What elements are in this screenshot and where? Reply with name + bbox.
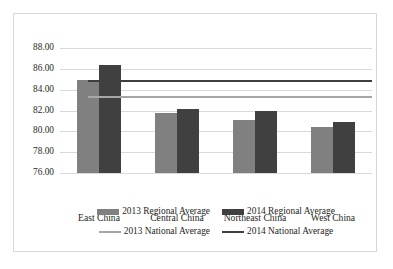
legend-item-label: 2013 National Average (124, 227, 210, 236)
bar-2013[interactable] (233, 120, 255, 173)
bar-2014[interactable] (333, 122, 355, 173)
legend-row-national: 2013 National Average 2014 National Aver… (60, 222, 372, 242)
legend-item-label: 2014 Regional Average (247, 207, 335, 216)
legend-item-label: 2013 Regional Average (122, 207, 210, 216)
legend-line-icon (99, 231, 121, 233)
legend-swatch-icon (222, 209, 244, 215)
legend-item-2013-national[interactable]: 2013 National Average (99, 227, 210, 236)
y-axis-tick-label: 80.00 (0, 126, 54, 135)
gridline (60, 173, 372, 174)
bar-2014[interactable] (177, 109, 199, 173)
gridline (60, 48, 372, 49)
legend-item-2014-regional[interactable]: 2014 Regional Average (222, 207, 335, 216)
y-axis-tick-label: 82.00 (0, 106, 54, 115)
bar-2013[interactable] (77, 80, 99, 173)
bar-2013[interactable] (155, 113, 177, 173)
bar-2013[interactable] (311, 127, 333, 173)
reference-line-2014[interactable] (88, 80, 372, 82)
y-axis-tick-label: 78.00 (0, 147, 54, 156)
chart-frame: 88.0086.0084.0082.0080.0078.0076.00 East… (13, 13, 377, 252)
y-axis-tick-label: 84.00 (0, 85, 54, 94)
reference-line-2013[interactable] (88, 96, 372, 98)
y-axis-tick-label: 88.00 (0, 43, 54, 52)
plot-area: 88.0086.0084.0082.0080.0078.0076.00 East… (60, 48, 372, 173)
legend-line-icon (222, 231, 244, 233)
bar-2014[interactable] (255, 111, 277, 174)
legend-swatch-icon (97, 209, 119, 215)
y-axis-tick-label: 76.00 (0, 168, 54, 177)
y-axis-tick-label: 86.00 (0, 64, 54, 73)
legend-item-label: 2014 National Average (247, 227, 333, 236)
legend-row-regional: 2013 Regional Average 2014 Regional Aver… (60, 202, 372, 222)
legend-item-2013-regional[interactable]: 2013 Regional Average (97, 207, 210, 216)
legend-item-2014-national[interactable]: 2014 National Average (222, 227, 333, 236)
chart-legend: 2013 Regional Average 2014 Regional Aver… (60, 202, 372, 242)
